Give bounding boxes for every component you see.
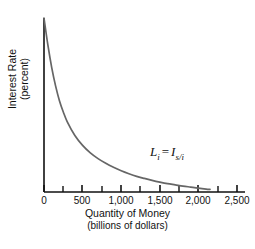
chart-figure: Interest Rate (percent) 0 500 1,000 1,50… bbox=[0, 0, 255, 249]
money-demand-curve bbox=[44, 18, 210, 189]
curve-label-equals: = bbox=[160, 144, 171, 159]
x-tick-label-2000: 2,000 bbox=[185, 195, 210, 206]
y-axis-title-line1: Interest Rate bbox=[6, 49, 18, 109]
axis-lines bbox=[44, 18, 245, 192]
x-axis-title: Quantity of Money (billions of dollars) bbox=[0, 207, 255, 233]
x-axis-title-line2: (billions of dollars) bbox=[0, 220, 255, 233]
y-axis-title-line2: (percent) bbox=[18, 58, 30, 100]
x-tick-label-1500: 1,500 bbox=[147, 195, 172, 206]
x-tick-label-500: 500 bbox=[74, 195, 91, 206]
x-axis-title-line1: Quantity of Money bbox=[0, 207, 255, 220]
curve-label-I-subscript: s/i bbox=[175, 152, 184, 162]
x-tick-label-0: 0 bbox=[41, 195, 47, 206]
curve-label: Li=Is/i bbox=[150, 144, 184, 162]
x-tick-label-1000: 1,000 bbox=[108, 195, 133, 206]
x-tick-label-2500: 2,500 bbox=[224, 195, 249, 206]
y-axis-title: Interest Rate (percent) bbox=[1, 19, 35, 139]
